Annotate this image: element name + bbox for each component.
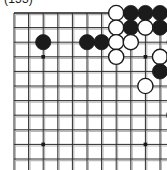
stone-black[interactable]: [94, 35, 109, 50]
stone-black[interactable]: [152, 64, 167, 79]
stone-disc: [138, 20, 153, 35]
stone-white[interactable]: [109, 35, 124, 50]
stone-disc: [79, 35, 94, 50]
go-diagram-figure: (153): [0, 0, 167, 170]
star-point: [144, 55, 148, 59]
stone-white[interactable]: [138, 20, 153, 35]
stone-black[interactable]: [123, 5, 138, 20]
stone-disc: [109, 5, 124, 20]
stone-white[interactable]: [152, 49, 167, 64]
stone-disc: [152, 5, 167, 20]
stone-disc: [109, 49, 124, 64]
stone-black[interactable]: [79, 35, 94, 50]
stone-white[interactable]: [138, 78, 153, 93]
stone-disc: [152, 20, 167, 35]
stone-disc: [123, 35, 138, 50]
stone-disc: [36, 35, 51, 50]
stone-white[interactable]: [109, 5, 124, 20]
stone-black[interactable]: [123, 20, 138, 35]
star-point: [144, 143, 148, 147]
stone-disc: [109, 20, 124, 35]
stone-disc: [123, 20, 138, 35]
stone-white[interactable]: [123, 35, 138, 50]
stone-disc: [138, 78, 153, 93]
stone-black[interactable]: [152, 20, 167, 35]
stone-black[interactable]: [152, 5, 167, 20]
stone-disc: [138, 5, 153, 20]
stone-black[interactable]: [36, 35, 51, 50]
stone-disc: [109, 35, 124, 50]
stone-disc: [152, 49, 167, 64]
stone-disc: [94, 35, 109, 50]
go-board[interactable]: [0, 0, 167, 170]
stone-white[interactable]: [109, 49, 124, 64]
stone-white[interactable]: [109, 20, 124, 35]
stone-black[interactable]: [138, 5, 153, 20]
stone-disc: [152, 64, 167, 79]
star-point: [41, 55, 45, 59]
star-point: [41, 143, 45, 147]
stone-disc: [123, 5, 138, 20]
